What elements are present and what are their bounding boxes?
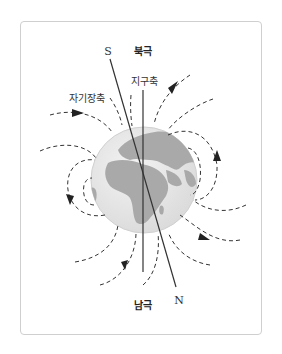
south-pole-label: 남극 [134, 297, 152, 312]
magnetic-axis-label: 자기장축 [69, 90, 105, 105]
arrowhead-icon [168, 81, 178, 94]
earth-axis-label: 지구축 [131, 73, 158, 88]
arrowhead-icon [72, 109, 84, 117]
magnetic-n-label: N [174, 294, 184, 307]
north-pole-label: 북극 [134, 43, 152, 58]
arrowhead-icon [121, 260, 128, 270]
magnetic-s-label: S [104, 45, 112, 58]
arrowhead-icon [198, 233, 210, 240]
